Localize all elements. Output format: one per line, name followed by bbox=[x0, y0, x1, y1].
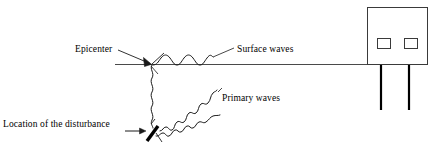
surface-waves-leader-line bbox=[213, 48, 234, 57]
label-epicenter: Epicenter bbox=[75, 44, 112, 55]
primary-waves-leader-line bbox=[218, 88, 222, 92]
label-surface-waves: Surface waves bbox=[237, 44, 293, 55]
primary-wave-upper bbox=[160, 90, 217, 131]
primary-wave-lower bbox=[156, 115, 220, 136]
diagram-canvas: Epicenter Surface waves Primary waves Lo… bbox=[0, 0, 434, 151]
epicenter-arrow bbox=[118, 50, 164, 74]
building-box bbox=[368, 8, 428, 65]
fault-slash bbox=[147, 119, 162, 142]
label-location-of-the-disturbance: Location of the disturbance bbox=[3, 119, 110, 130]
building-window-left bbox=[378, 39, 391, 49]
disturbance-arrow bbox=[125, 128, 146, 134]
vertical-wave bbox=[151, 65, 153, 128]
label-primary-waves: Primary waves bbox=[222, 93, 280, 104]
surface-wave bbox=[153, 55, 213, 65]
building-window-right bbox=[405, 39, 418, 49]
